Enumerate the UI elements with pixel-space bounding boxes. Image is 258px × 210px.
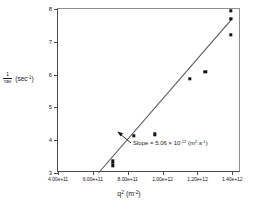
slope-annotation: Slope = 5.06 × 10-12 (m2.s-1) <box>133 140 208 147</box>
x-axis-units-open: (m <box>126 190 134 197</box>
slope-times: × <box>169 140 173 146</box>
slope-mantissa: 5.06 <box>155 140 167 146</box>
figure-canvas: 1 τav (sec-1) 345678 4.00e+116.00e+118.0… <box>0 0 258 210</box>
x-axis-label: q2 (m-2) <box>0 190 258 198</box>
slope-arrow-icon <box>0 0 258 210</box>
slope-unit-close: ) <box>206 140 208 146</box>
slope-prefix: Slope <box>133 140 148 146</box>
slope-equals: = <box>150 140 154 146</box>
x-axis-exponent: 2 <box>121 190 124 195</box>
slope-unit-open: (m <box>188 140 195 146</box>
slope-exponent: -12 <box>180 139 186 144</box>
x-axis-units-close: ) <box>138 190 140 197</box>
